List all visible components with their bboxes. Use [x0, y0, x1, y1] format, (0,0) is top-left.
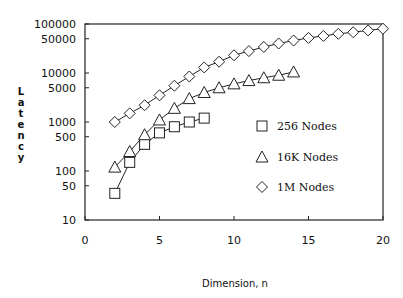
x-tick-label: 20 — [376, 234, 390, 247]
y-axis: 1050100500100050001000050000100000 — [34, 18, 89, 227]
x-tick-label: 0 — [82, 234, 89, 247]
y-tick-label: 10 — [62, 214, 76, 227]
y-tick-label: 1000 — [48, 116, 76, 129]
x-axis: 05101520 — [82, 216, 391, 247]
y-axis-title-letter: e — [18, 119, 25, 130]
legend-item: 256 Nodes — [257, 120, 337, 133]
legend-item: 1M Nodes — [257, 181, 335, 194]
y-axis-title: Latency — [17, 86, 24, 163]
square-marker-icon — [125, 157, 135, 167]
diamond-marker-icon — [288, 35, 299, 46]
y-tick-label: 500 — [55, 131, 76, 144]
y-axis-title-letter: L — [18, 86, 25, 97]
diamond-marker-icon — [303, 32, 314, 43]
x-tick-label: 5 — [156, 234, 163, 247]
latency-chart: 1050100500100050001000050000100000 05101… — [0, 0, 403, 298]
square-marker-icon — [199, 113, 209, 123]
legend-item: 16K Nodes — [256, 151, 339, 164]
y-tick-label: 50 — [62, 180, 76, 193]
y-axis-title-letter: c — [18, 141, 24, 152]
y-tick-label: 100000 — [34, 18, 76, 31]
diamond-marker-icon — [348, 27, 359, 38]
square-marker-icon — [257, 121, 267, 131]
triangle-marker-icon — [154, 114, 166, 125]
y-axis-title-letter: y — [18, 152, 25, 163]
diamond-marker-icon — [109, 117, 120, 128]
diamond-marker-icon — [363, 25, 374, 36]
diamond-marker-icon — [378, 23, 389, 34]
square-marker-icon — [140, 139, 150, 149]
legend-label: 256 Nodes — [277, 120, 337, 133]
square-marker-icon — [184, 117, 194, 127]
triangle-marker-icon — [256, 151, 268, 162]
y-axis-title-letter: a — [18, 97, 25, 108]
diamond-marker-icon — [124, 108, 135, 119]
diamond-marker-icon — [154, 90, 165, 101]
x-tick-label: 15 — [302, 234, 316, 247]
triangle-marker-icon — [168, 102, 180, 113]
diamond-marker-icon — [199, 62, 210, 73]
diamond-marker-icon — [257, 182, 268, 193]
y-tick-label: 50000 — [41, 33, 76, 46]
data-series — [109, 23, 389, 198]
y-axis-title-letter: n — [17, 130, 24, 141]
y-tick-label: 10000 — [41, 67, 76, 80]
diamond-marker-icon — [229, 50, 240, 61]
triangle-marker-icon — [213, 82, 225, 93]
square-marker-icon — [169, 122, 179, 132]
triangle-marker-icon — [198, 86, 210, 97]
legend-label: 16K Nodes — [277, 151, 339, 164]
legend: 256 Nodes16K Nodes1M Nodes — [256, 120, 339, 194]
y-tick-label: 5000 — [48, 82, 76, 95]
triangle-marker-icon — [183, 93, 195, 104]
diamond-marker-icon — [333, 28, 344, 39]
x-axis-title: Dimension, n — [202, 278, 268, 289]
y-tick-label: 100 — [55, 165, 76, 178]
legend-label: 1M Nodes — [277, 181, 335, 194]
square-marker-icon — [155, 128, 165, 138]
diamond-marker-icon — [273, 38, 284, 49]
diamond-marker-icon — [318, 30, 329, 41]
diamond-marker-icon — [169, 80, 180, 91]
y-axis-title-letter: t — [19, 108, 24, 119]
diamond-marker-icon — [214, 56, 225, 67]
triangle-marker-icon — [288, 66, 300, 77]
diamond-marker-icon — [243, 46, 254, 57]
x-tick-label: 10 — [227, 234, 241, 247]
diamond-marker-icon — [139, 100, 150, 111]
diamond-marker-icon — [184, 71, 195, 82]
square-marker-icon — [110, 188, 120, 198]
diamond-marker-icon — [258, 41, 269, 52]
